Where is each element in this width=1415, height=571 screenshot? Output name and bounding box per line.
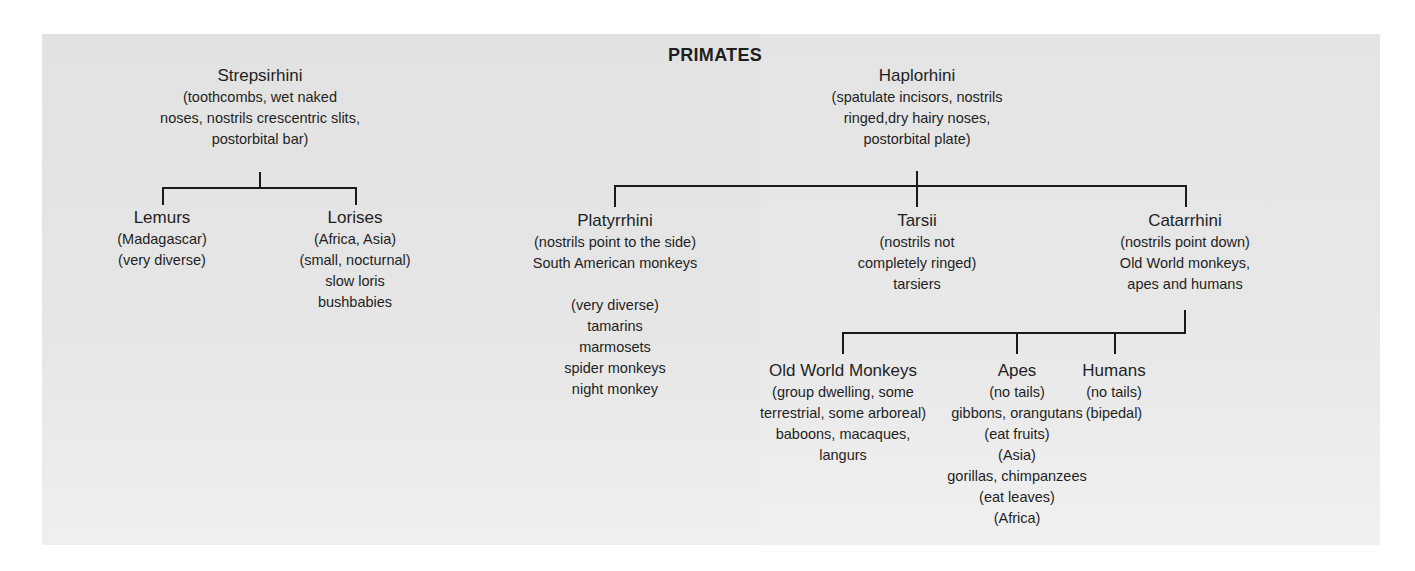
node-description: (group dwelling, some — [760, 382, 926, 403]
node-haplorhini: Haplorhini (spatulate incisors, nostrils… — [832, 65, 1003, 150]
connector-line — [916, 171, 918, 186]
connector-line — [842, 332, 844, 354]
connector-line — [916, 185, 918, 207]
connector-line — [614, 185, 1187, 187]
node-catarrhini: Catarrhini (nostrils point down) Old Wor… — [1120, 210, 1250, 295]
node-description: ringed,dry hairy noses, — [832, 108, 1003, 129]
node-description: spider monkeys — [533, 358, 697, 379]
node-name: Old World Monkeys — [760, 360, 926, 382]
node-description: (Asia) — [947, 445, 1086, 466]
node-description: tamarins — [533, 316, 697, 337]
node-description: (toothcombs, wet naked — [160, 87, 360, 108]
node-name: Lemurs — [117, 207, 206, 229]
node-description: marmosets — [533, 337, 697, 358]
node-description: bushbabies — [299, 292, 410, 313]
node-description: (small, nocturnal) — [299, 250, 410, 271]
connector-line — [162, 187, 164, 205]
node-spacer — [533, 274, 697, 295]
node-description: (very diverse) — [117, 250, 206, 271]
node-description: terrestrial, some arboreal) — [760, 403, 926, 424]
node-description: gorillas, chimpanzees — [947, 466, 1086, 487]
node-description: baboons, macaques, — [760, 424, 926, 445]
node-description: (spatulate incisors, nostrils — [832, 87, 1003, 108]
connector-line — [355, 187, 357, 205]
node-lorises: Lorises (Africa, Asia) (small, nocturnal… — [299, 207, 410, 313]
node-tarsii: Tarsii (nostrils not completely ringed) … — [858, 210, 976, 295]
node-description: Old World monkeys, — [1120, 253, 1250, 274]
node-description: langurs — [760, 445, 926, 466]
node-description: (Africa, Asia) — [299, 229, 410, 250]
node-name: Tarsii — [858, 210, 976, 232]
node-apes: Apes (no tails) gibbons, orangutans (eat… — [947, 360, 1086, 529]
node-description: (no tails) — [1082, 382, 1145, 403]
node-description: apes and humans — [1120, 274, 1250, 295]
node-description: (very diverse) — [533, 295, 697, 316]
node-name: Humans — [1082, 360, 1145, 382]
node-description: postorbital plate) — [832, 129, 1003, 150]
connector-line — [1114, 332, 1116, 354]
connector-line — [1184, 310, 1186, 333]
connector-line — [162, 187, 357, 189]
diagram-title: PRIMATES — [668, 45, 762, 66]
node-humans: Humans (no tails) (bipedal) — [1082, 360, 1145, 424]
connector-line — [1185, 185, 1187, 207]
connector-line — [259, 172, 261, 188]
connector-line — [1016, 332, 1018, 354]
node-description: slow loris — [299, 271, 410, 292]
node-description: completely ringed) — [858, 253, 976, 274]
connector-line — [614, 185, 616, 207]
node-lemurs: Lemurs (Madagascar) (very diverse) — [117, 207, 206, 271]
node-description: postorbital bar) — [160, 129, 360, 150]
node-description: (nostrils point down) — [1120, 232, 1250, 253]
node-strepsirhini: Strepsirhini (toothcombs, wet naked nose… — [160, 65, 360, 150]
node-old-world-monkeys: Old World Monkeys (group dwelling, some … — [760, 360, 926, 466]
connector-line — [842, 332, 1186, 334]
node-name: Haplorhini — [832, 65, 1003, 87]
node-description: (no tails) — [947, 382, 1086, 403]
node-name: Catarrhini — [1120, 210, 1250, 232]
node-name: Lorises — [299, 207, 410, 229]
node-description: (Madagascar) — [117, 229, 206, 250]
node-description: night monkey — [533, 379, 697, 400]
node-description: (bipedal) — [1082, 403, 1145, 424]
node-description: gibbons, orangutans — [947, 403, 1086, 424]
node-description: South American monkeys — [533, 253, 697, 274]
node-platyrrhini: Platyrrhini (nostrils point to the side)… — [533, 210, 697, 400]
node-description: tarsiers — [858, 274, 976, 295]
node-name: Apes — [947, 360, 1086, 382]
node-description: noses, nostrils crescentric slits, — [160, 108, 360, 129]
node-name: Strepsirhini — [160, 65, 360, 87]
node-name: Platyrrhini — [533, 210, 697, 232]
node-description: (Africa) — [947, 508, 1086, 529]
node-description: (eat leaves) — [947, 487, 1086, 508]
node-description: (nostrils not — [858, 232, 976, 253]
node-description: (nostrils point to the side) — [533, 232, 697, 253]
node-description: (eat fruits) — [947, 424, 1086, 445]
